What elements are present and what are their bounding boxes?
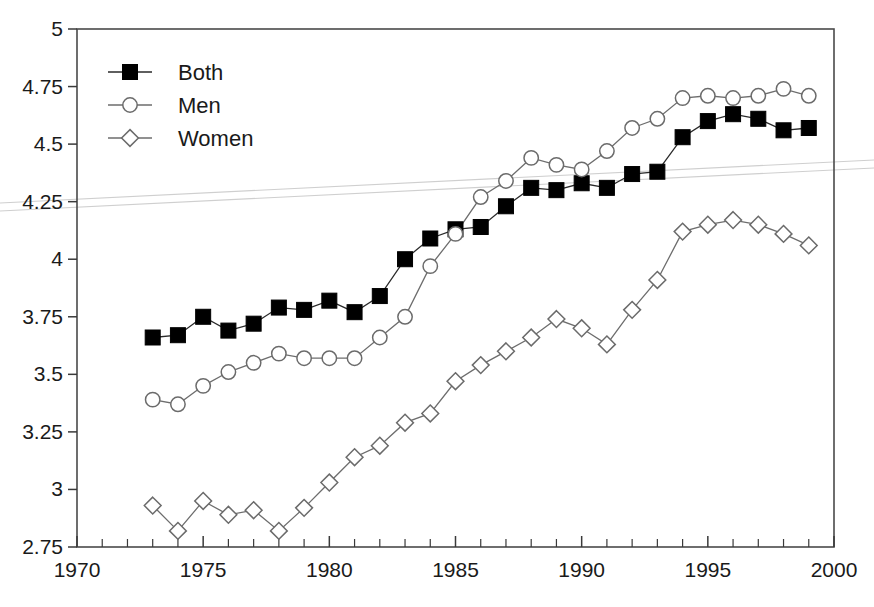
- marker-diamond-icon: [447, 373, 464, 390]
- marker-diamond-icon: [624, 301, 641, 318]
- marker-square-icon: [196, 309, 211, 324]
- marker-circle-icon: [347, 351, 361, 365]
- marker-square-icon: [700, 114, 715, 129]
- marker-diamond-icon: [245, 502, 262, 519]
- marker-circle-icon: [474, 190, 488, 204]
- x-axis-tick-label: 1975: [180, 558, 227, 581]
- marker-diamond-icon: [674, 223, 691, 240]
- marker-circle-icon: [776, 82, 790, 96]
- y-axis-ticks: [68, 29, 77, 547]
- marker-circle-icon: [600, 144, 614, 158]
- marker-circle-icon: [146, 392, 160, 406]
- legend-item-women[interactable]: Women: [108, 126, 253, 151]
- y-axis-tick-label: 4: [51, 247, 63, 270]
- marker-circle-icon: [574, 162, 588, 176]
- marker-circle-icon: [297, 351, 311, 365]
- x-axis-tick-label: 2000: [811, 558, 858, 581]
- marker-diamond-icon: [548, 311, 565, 328]
- x-axis-tick-label: 1990: [558, 558, 605, 581]
- y-axis-tick-label: 4.25: [22, 190, 63, 213]
- x-axis-ticks: [77, 536, 834, 547]
- y-axis-tick-label: 2.75: [22, 535, 63, 558]
- marker-square-icon: [498, 199, 513, 214]
- y-axis-tick-label: 5: [51, 17, 63, 40]
- legend-item-both[interactable]: Both: [108, 60, 223, 85]
- marker-diamond-icon: [775, 225, 792, 242]
- marker-square-icon: [322, 293, 337, 308]
- marker-square-icon: [726, 107, 741, 122]
- marker-square-icon: [751, 111, 766, 126]
- marker-square-icon: [170, 328, 185, 343]
- marker-square-icon: [650, 164, 665, 179]
- marker-diamond-icon: [800, 237, 817, 254]
- marker-square-icon: [398, 252, 413, 267]
- chart-container: 2.7533.253.53.7544.254.54.755 1970197519…: [0, 0, 874, 607]
- marker-diamond-icon: [472, 357, 489, 374]
- legend-item-label: Both: [178, 60, 223, 85]
- y-axis-tick-label: 3.25: [22, 420, 63, 443]
- marker-diamond-icon: [498, 343, 515, 360]
- marker-circle-icon: [272, 346, 286, 360]
- x-axis-tick-label: 1995: [684, 558, 731, 581]
- marker-square-icon: [524, 180, 539, 195]
- x-axis-tick-labels: 1970197519801985199019952000: [54, 558, 858, 581]
- y-axis-tick-label: 4.5: [34, 132, 63, 155]
- marker-square-icon: [625, 167, 640, 182]
- marker-circle-icon: [751, 89, 765, 103]
- y-axis-tick-label: 4.75: [22, 75, 63, 98]
- marker-diamond-icon: [523, 329, 540, 346]
- marker-diamond-icon: [573, 320, 590, 337]
- marker-circle-icon: [246, 356, 260, 370]
- marker-diamond-icon: [422, 405, 439, 422]
- scan-artifact-lines: [0, 160, 874, 211]
- marker-square-icon: [297, 302, 312, 317]
- y-axis-tick-label: 3.5: [34, 362, 63, 385]
- marker-circle-icon: [701, 89, 715, 103]
- marker-diamond-icon: [649, 272, 666, 289]
- marker-square-icon: [574, 176, 589, 191]
- chart-legend: BothMenWomen: [108, 60, 253, 151]
- marker-square-icon: [423, 231, 438, 246]
- marker-circle-icon: [221, 365, 235, 379]
- marker-circle-icon: [448, 227, 462, 241]
- marker-square-icon: [776, 123, 791, 138]
- marker-circle-icon: [171, 397, 185, 411]
- marker-square-icon: [473, 219, 488, 234]
- series-women: [153, 220, 809, 531]
- marker-circle-icon: [802, 89, 816, 103]
- x-axis-tick-label: 1985: [432, 558, 479, 581]
- marker-diamond-icon: [750, 216, 767, 233]
- marker-square-icon: [801, 120, 816, 135]
- marker-diamond-icon: [220, 506, 237, 523]
- marker-circle-icon: [196, 379, 210, 393]
- marker-circle-icon: [322, 351, 336, 365]
- marker-square-icon: [549, 183, 564, 198]
- marker-square-icon: [123, 65, 138, 80]
- marker-square-icon: [347, 305, 362, 320]
- marker-square-icon: [372, 289, 387, 304]
- marker-circle-icon: [423, 259, 437, 273]
- marker-circle-icon: [650, 112, 664, 126]
- x-axis-tick-label: 1980: [306, 558, 353, 581]
- legend-item-label: Men: [178, 93, 221, 118]
- marker-circle-icon: [398, 310, 412, 324]
- series-line-women: [153, 220, 809, 531]
- marker-circle-icon: [123, 98, 137, 112]
- marker-square-icon: [675, 130, 690, 145]
- marker-circle-icon: [726, 91, 740, 105]
- marker-circle-icon: [675, 91, 689, 105]
- x-axis-tick-label: 1970: [54, 558, 101, 581]
- marker-diamond-icon: [599, 336, 616, 353]
- marker-square-icon: [599, 180, 614, 195]
- marker-circle-icon: [549, 158, 563, 172]
- y-axis-tick-label: 3: [51, 477, 63, 500]
- legend-item-men[interactable]: Men: [108, 93, 221, 118]
- y-axis-tick-labels: 2.7533.253.53.7544.254.54.755: [22, 17, 63, 558]
- marker-diamond-icon: [725, 212, 742, 229]
- marker-square-icon: [246, 316, 261, 331]
- marker-circle-icon: [373, 330, 387, 344]
- line-chart: 2.7533.253.53.7544.254.54.755 1970197519…: [0, 0, 874, 607]
- marker-square-icon: [221, 323, 236, 338]
- series-markers-women: [144, 212, 817, 540]
- marker-diamond-icon: [699, 216, 716, 233]
